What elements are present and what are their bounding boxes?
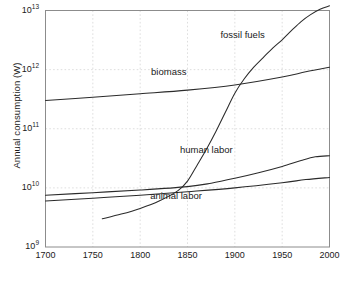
y-axis-title: Annual consumption (W) bbox=[11, 36, 22, 196]
x-tick-label: 1700 bbox=[26, 250, 66, 260]
x-tick-label: 1800 bbox=[120, 250, 160, 260]
y-tick-label: 1010 bbox=[5, 182, 39, 192]
chart-figure: Annual consumption (W) 10910101011101210… bbox=[0, 0, 352, 282]
series-label-fossil-fuels: fossil fuels bbox=[220, 29, 264, 40]
plot-area bbox=[0, 0, 352, 282]
x-tick-label: 1850 bbox=[168, 250, 208, 260]
x-tick-label: 1950 bbox=[262, 250, 302, 260]
y-tick-label: 1012 bbox=[5, 64, 39, 74]
x-tick-label: 1900 bbox=[215, 250, 255, 260]
series-label-animal-labor: animal labor bbox=[150, 190, 202, 201]
y-tick-label: 1013 bbox=[5, 5, 39, 15]
gridlines bbox=[46, 11, 330, 248]
x-tick-label: 2000 bbox=[310, 250, 350, 260]
curve-fossil-fuels bbox=[102, 6, 329, 219]
y-tick-label: 1011 bbox=[5, 123, 39, 133]
series-label-human-labor: human labor bbox=[180, 144, 233, 155]
x-tick-label: 1750 bbox=[73, 250, 113, 260]
series-label-biomass: biomass bbox=[151, 66, 186, 77]
